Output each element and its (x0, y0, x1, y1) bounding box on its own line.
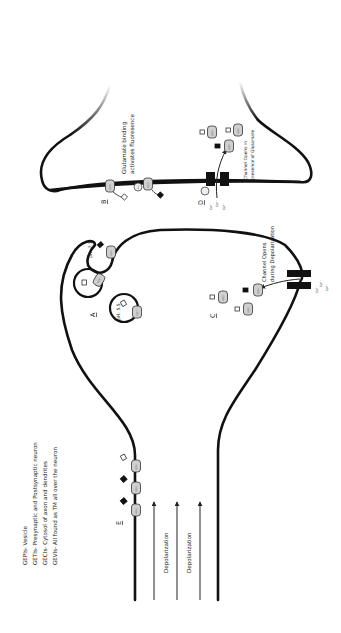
ph-docked-label: pH: 7.1 (88, 241, 93, 258)
voltage-on-icon (120, 476, 127, 483)
label-e: E (115, 521, 123, 525)
svg-text:D: D (197, 200, 205, 205)
label-c: C (209, 313, 217, 318)
svg-text:A: A (89, 312, 97, 317)
voltage-off-icon (120, 454, 126, 461)
svg-text:presence of Glutamate: presence of Glutamate (250, 129, 255, 180)
ca-empty-icon (235, 307, 240, 311)
svg-text:C: C (209, 313, 217, 318)
presynaptic-bouton (61, 230, 302, 612)
gevi-sensor-2: GEVI (132, 482, 141, 494)
legend-line-4: GEVIs- All found as TM all over the neur… (52, 447, 58, 565)
svg-text:Channel Opens: Channel Opens (261, 242, 268, 282)
svg-text:B: B (100, 200, 108, 204)
post-channel-left (206, 172, 215, 186)
svg-text:GEVI: GEVI (135, 464, 138, 470)
post-channel-annotation: Channel Opens in presence of Glutamate (243, 129, 255, 180)
ligand-bound-icon (157, 192, 163, 198)
gepi-sensor-acidic: GEPI (133, 306, 142, 318)
legend-line-2: GETIs- Presynaptic and Postsynaptic neur… (32, 442, 39, 565)
depolarization-label-1: Depolarization (163, 532, 170, 573)
gevi-sensor-3: GEVI (132, 504, 141, 516)
svg-text:Glu: Glu (137, 185, 140, 189)
spine-neck-right (240, 82, 258, 120)
geti-sensor-unbound: GETI (106, 180, 115, 192)
pre-channel-top (287, 270, 311, 277)
svg-text:GECI: GECI (257, 288, 260, 294)
geci-sensor-idle: GECI (208, 126, 217, 138)
svg-text:GEPI: GEPI (136, 310, 139, 315)
svg-text:GECI: GECI (237, 128, 240, 134)
ph-bound-icon (97, 242, 103, 248)
ph-vesicle-label: pH: 5.5 (116, 303, 121, 320)
post-channel-right (220, 172, 229, 186)
label-b: B (100, 200, 108, 204)
ca-empty-icon (210, 295, 215, 299)
ca-empty-icon (200, 130, 205, 134)
legend: GEPIs- Vesicle GETIs- Presynaptic and Po… (22, 442, 58, 565)
ca-bound-icon (243, 288, 248, 292)
postsynaptic-spine (41, 82, 311, 191)
voltage-on-icon (120, 498, 127, 505)
gevi-sensor-1: GEVI (132, 460, 141, 472)
svg-text:Ca²⁺: Ca²⁺ (319, 280, 323, 287)
legend-line-1: GEPIs- Vesicle (22, 525, 28, 565)
svg-text:GEPI: GEPI (110, 250, 113, 255)
svg-text:GECI: GECI (247, 307, 250, 313)
geci-sensor-active: GECI (225, 140, 234, 152)
glutamate-icon-d (201, 187, 209, 195)
legend-line-3: GECIs- Cytosol of axon and dendrites (42, 461, 49, 565)
gepi-sensor-docked: GEPI (107, 246, 116, 258)
glutamate-annotation: Glutamate binding activates fluoresence (121, 114, 135, 174)
svg-text:Channel Opens in: Channel Opens in (243, 141, 248, 180)
svg-text:GEVI: GEVI (135, 486, 138, 492)
geti-sensor-bound: GETI (144, 178, 153, 190)
pre-channel-annotation: Channel Opens during Depolarization (261, 226, 276, 282)
svg-text:Ca²⁺: Ca²⁺ (325, 284, 329, 291)
geci-sensor-pre-idle: GECI (219, 291, 228, 303)
synapse-diagram: Glutamate binding activates fluoresence … (0, 0, 341, 633)
glutamate-line2: activates fluoresence (129, 114, 135, 174)
ligand-empty-icon (121, 194, 127, 200)
svg-text:Ca²⁺: Ca²⁺ (215, 200, 219, 207)
svg-text:GETI: GETI (109, 184, 112, 189)
glutamate-line1: Glutamate binding (121, 121, 128, 174)
ph-empty-icon (120, 300, 126, 307)
svg-text:GETI: GETI (147, 182, 150, 187)
geci-sensor-idle-2: GECI (234, 124, 243, 136)
tether (113, 192, 122, 198)
geci-sensor-pre-idle-2: GECI (244, 303, 253, 315)
postsynaptic-membrane (50, 181, 300, 190)
depolarization-label-2: Depolarization (186, 532, 193, 573)
svg-text:GECI: GECI (222, 295, 225, 301)
svg-text:Ca²⁺: Ca²⁺ (222, 203, 226, 210)
svg-text:Ca²⁺: Ca²⁺ (209, 203, 213, 210)
ca-empty-icon (226, 128, 231, 132)
ph-empty-icon (82, 280, 87, 285)
svg-text:E: E (115, 521, 123, 525)
label-a: A (89, 312, 97, 317)
svg-text:GECI: GECI (211, 130, 214, 136)
label-d: D (197, 200, 205, 205)
svg-text:GECI: GECI (228, 144, 231, 150)
svg-text:GEVI: GEVI (135, 508, 138, 514)
gepi-sensor-vesicle: GEPI (92, 273, 106, 288)
svg-text:during Depolarization: during Depolarization (269, 226, 276, 282)
pre-channel-bottom (287, 282, 311, 289)
ca-bound-icon (215, 144, 220, 148)
spine-neck-left (70, 85, 110, 135)
geci-sensor-pre-active: GECI (254, 284, 263, 296)
